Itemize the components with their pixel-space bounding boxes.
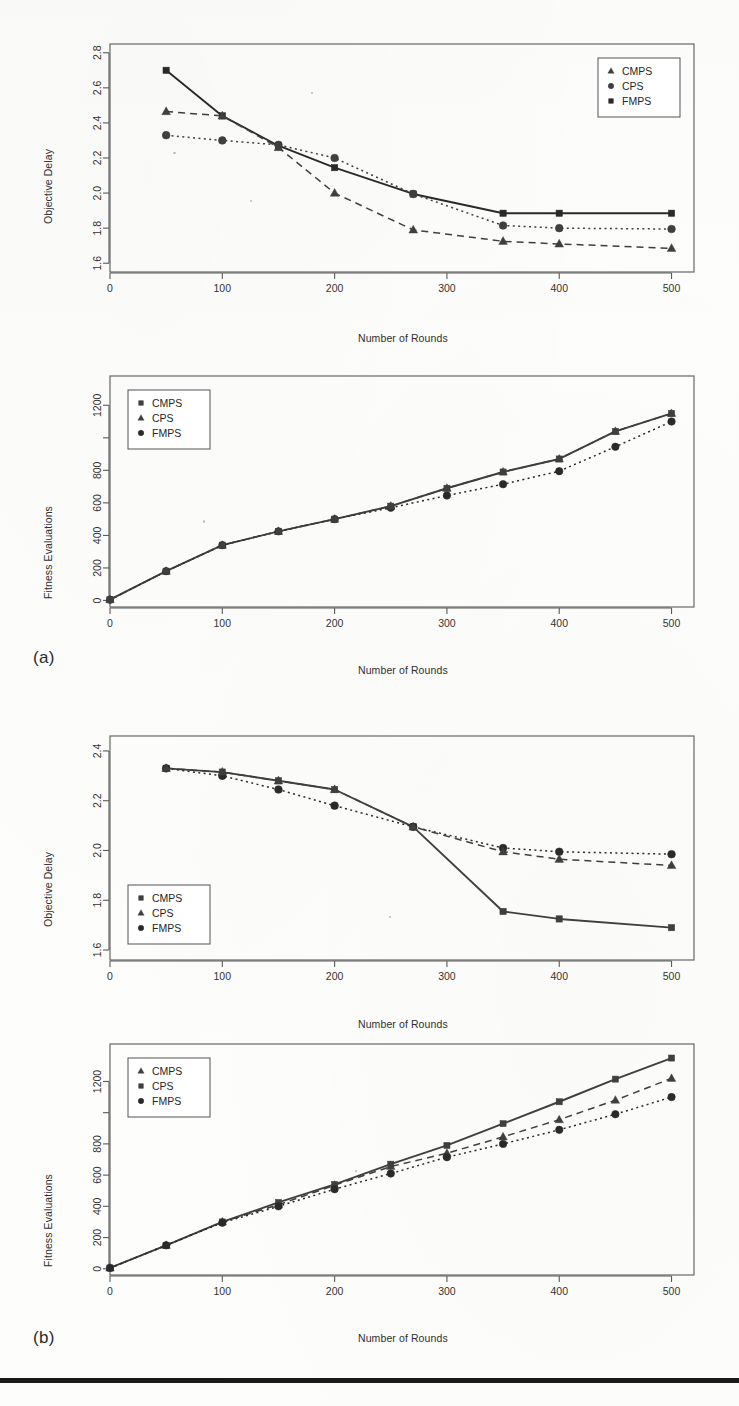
chart-a-bottom: Fitness Evaluations 01002003004005000200… [0, 364, 739, 684]
data-point-circle [499, 222, 507, 230]
x-tick-label: 300 [438, 970, 456, 982]
chart-b-top: Objective Delay 01002003004005001.61.82.… [0, 722, 739, 1022]
data-point-triangle [555, 855, 564, 863]
data-point-circle [499, 480, 506, 487]
y-tick-label: 1200 [91, 1070, 103, 1094]
series-line [166, 768, 671, 865]
y-tick-label: 2.4 [91, 115, 103, 130]
legend-label: FMPS [152, 922, 181, 934]
legend: CMPSCPSFMPS [128, 1058, 210, 1117]
x-tick-label: 0 [107, 970, 113, 982]
x-tick-label: 200 [326, 970, 344, 982]
chart-b-top-ylabel: Objective Delay [42, 852, 54, 927]
chart-b-bottom: Fitness Evaluations 01002003004005000200… [0, 1032, 739, 1352]
data-point-circle [106, 1264, 113, 1271]
legend: CMPSCPSFMPS [128, 390, 210, 449]
series-line [110, 1097, 672, 1268]
y-tick-label: 2.0 [91, 186, 103, 201]
data-point-circle [275, 1203, 282, 1210]
chart-a-bottom-ylabel: Fitness Evaluations [42, 506, 54, 599]
y-tick-label: 0 [91, 1266, 103, 1272]
data-point-square [612, 1076, 618, 1082]
y-tick-label: 1200 [91, 393, 103, 417]
y-tick-label: 0 [91, 597, 103, 603]
x-tick-label: 300 [438, 617, 456, 629]
panel-b: Objective Delay 01002003004005001.61.82.… [0, 700, 739, 1390]
chart-a-top-xlabel: Number of Rounds [358, 332, 448, 344]
legend-label: FMPS [152, 1095, 181, 1107]
y-tick-label: 2.8 [91, 45, 103, 60]
y-tick-label: 1.6 [91, 256, 103, 271]
x-tick-label: 200 [326, 1285, 344, 1297]
y-tick-label: 800 [91, 1135, 103, 1153]
data-point-square [163, 568, 169, 574]
x-tick-label: 200 [326, 282, 344, 294]
data-point-circle [499, 1140, 506, 1147]
legend-label: CMPS [152, 1065, 182, 1077]
x-tick-label: 100 [214, 282, 232, 294]
chart-b-top-xlabel: Number of Rounds [358, 1018, 448, 1030]
data-point-square [219, 542, 225, 548]
data-point-square [612, 428, 618, 434]
data-point-circle [331, 1185, 338, 1192]
data-point-circle [162, 131, 170, 139]
data-point-triangle [667, 1074, 675, 1082]
data-point-circle [556, 467, 563, 474]
x-tick-label: 400 [550, 970, 568, 982]
chart-a-bottom-plot: 010020030040050002004006008001200CMPSCPS… [0, 364, 739, 646]
legend-label: CMPS [152, 892, 182, 904]
y-tick-label: 200 [91, 1229, 103, 1247]
chart-b-bottom-plot: 010020030040050002004006008001200CMPSCPS… [0, 1032, 739, 1314]
legend-label: FMPS [152, 427, 181, 439]
legend-label: CPS [152, 907, 174, 919]
legend-label: CPS [622, 80, 644, 92]
x-tick-label: 100 [214, 617, 232, 629]
data-point-circle [218, 137, 226, 145]
chart-b-bottom-ylabel: Fitness Evaluations [42, 1174, 54, 1267]
data-point-circle [331, 154, 339, 162]
data-point-square [332, 516, 338, 522]
legend: CMPSCPSFMPS [128, 885, 210, 944]
x-tick-label: 0 [107, 617, 113, 629]
y-tick-label: 400 [91, 1197, 103, 1215]
y-tick-label: 400 [91, 527, 103, 545]
x-tick-label: 400 [550, 1285, 568, 1297]
chart-a-top: Objective Delay 01002003004005001.61.82.… [0, 14, 739, 334]
legend-label: CMPS [622, 65, 652, 77]
data-point-triangle [667, 244, 676, 252]
data-point-square [668, 924, 674, 930]
chart-b-bottom-xlabel: Number of Rounds [358, 1332, 448, 1344]
footer-rule [0, 1378, 739, 1383]
y-tick-label: 600 [91, 1166, 103, 1184]
chart-a-top-plot: 01002003004005001.61.82.02.22.42.62.8CMP… [0, 14, 739, 314]
x-tick-label: 500 [663, 1285, 681, 1297]
y-tick-label: 2.2 [91, 151, 103, 166]
data-point-circle [138, 1098, 143, 1103]
panel-a: Objective Delay 01002003004005001.61.82.… [0, 0, 739, 700]
y-tick-label: 2.0 [91, 843, 103, 858]
legend-label: CMPS [152, 397, 182, 409]
data-point-square [556, 210, 562, 216]
data-point-triangle [162, 107, 171, 115]
data-point-square [556, 916, 562, 922]
series-CMPS [162, 107, 676, 252]
series-line [166, 768, 671, 854]
series-CMPS [163, 765, 675, 931]
data-point-square [275, 528, 281, 534]
panel-b-label: (b) [33, 1328, 55, 1348]
legend: CMPSCPSFMPS [598, 58, 680, 117]
data-point-circle [219, 1219, 226, 1226]
x-tick-label: 0 [107, 282, 113, 294]
data-point-circle [612, 1111, 619, 1118]
x-tick-label: 200 [326, 617, 344, 629]
panel-a-label: (a) [33, 648, 55, 668]
data-point-circle [668, 418, 675, 425]
y-tick-label: 200 [91, 559, 103, 577]
x-tick-label: 400 [550, 617, 568, 629]
data-point-circle [162, 1242, 169, 1249]
series-CPS [162, 764, 676, 869]
y-tick-label: 600 [91, 494, 103, 512]
data-point-circle [556, 1126, 563, 1133]
data-point-triangle [555, 1115, 563, 1123]
y-tick-label: 1.6 [91, 943, 103, 958]
